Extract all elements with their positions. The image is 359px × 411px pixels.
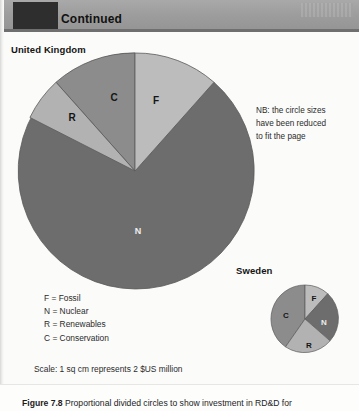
chart-key: F = Fossil N = Nuclear R = Renewables C … bbox=[44, 292, 109, 345]
pie-label-se-fossil: F bbox=[312, 294, 317, 303]
key-item-renewables: R = Renewables bbox=[44, 318, 109, 331]
pie-chart-sweden: F N R C bbox=[0, 0, 359, 411]
pie-label-se-conservation: C bbox=[283, 311, 289, 320]
figure-caption: Figure 7.8 Proportional divided circles … bbox=[22, 398, 352, 409]
figure-number: Figure 7.8 bbox=[22, 398, 63, 408]
key-item-nuclear: N = Nuclear bbox=[44, 305, 109, 318]
key-item-conservation: C = Conservation bbox=[44, 332, 109, 345]
key-item-fossil: F = Fossil bbox=[44, 292, 109, 305]
pie-label-se-renewables: R bbox=[306, 341, 312, 350]
scale-statement: Scale: 1 sq cm represents 2 $US million bbox=[34, 364, 183, 374]
figure-caption-text: Proportional divided circles to show inv… bbox=[65, 398, 292, 408]
pie-label-se-nuclear: N bbox=[321, 318, 327, 327]
page-canvas: Continued United Kingdom F N R C NB: the… bbox=[0, 0, 359, 411]
